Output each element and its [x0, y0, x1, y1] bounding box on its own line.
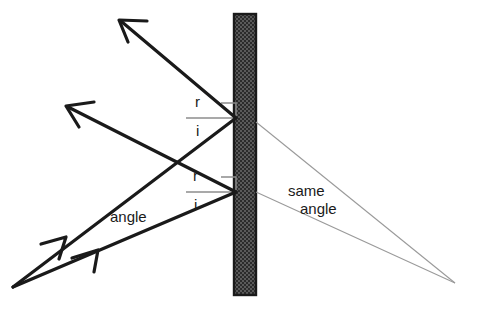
- reflected-ray-lower: [68, 107, 236, 192]
- reflection-diagram: r i r i angle same angle: [0, 0, 477, 309]
- label-incident-lower: i: [194, 196, 197, 213]
- label-incident-upper: i: [196, 122, 199, 139]
- virtual-ray-upper: [256, 122, 455, 283]
- incident-rays-group: [13, 118, 236, 287]
- labels-group: r i r i angle same angle: [110, 93, 337, 225]
- mirror-surface: [234, 14, 256, 295]
- reflected-rays-group: [66, 20, 236, 192]
- label-angle: angle: [110, 208, 147, 225]
- label-same-angle-line2: angle: [300, 200, 337, 217]
- virtual-ray-lower: [256, 192, 455, 283]
- label-reflected-lower: r: [193, 167, 198, 184]
- reflected-ray-upper: [122, 22, 236, 118]
- incident-ray-lower: [13, 192, 236, 287]
- virtual-rays-group: [256, 122, 455, 283]
- diagram-canvas: r i r i angle same angle: [0, 0, 477, 309]
- label-reflected-upper: r: [195, 93, 200, 110]
- label-same-angle-line1: same: [288, 182, 325, 199]
- incident-ray-upper: [13, 118, 236, 287]
- mirror-group: [234, 14, 256, 295]
